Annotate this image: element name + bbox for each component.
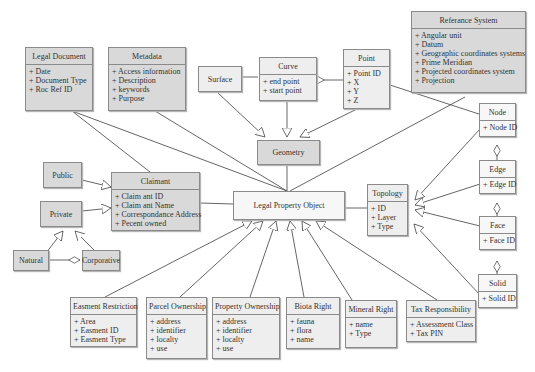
- class-solid[interactable]: Solid + Solid ID: [478, 274, 517, 308]
- class-tax-responsibility[interactable]: Tax Responsibility + Assessment Class + …: [406, 300, 476, 342]
- class-name: Node: [480, 104, 515, 121]
- class-attributes: + Claim ant ID + Claim ant Name + Corres…: [112, 190, 199, 230]
- class-attributes: + name + Type: [346, 318, 396, 340]
- class-name: Edge: [480, 161, 515, 178]
- class-attributes: + Point ID + X + Y + Z: [344, 67, 389, 107]
- attribute: + Prime Meridian: [415, 58, 522, 67]
- attribute: + Roc Ref ID: [29, 85, 89, 94]
- class-edge[interactable]: Edge + Edge ID: [479, 160, 516, 194]
- class-name: Point: [344, 50, 389, 67]
- class-corporative[interactable]: Corporative: [82, 250, 120, 271]
- class-point[interactable]: Point + Point ID + X + Y + Z: [343, 49, 390, 109]
- attribute: + Purpose: [112, 94, 182, 103]
- class-attributes: + address + identifier + localty + use: [213, 315, 279, 355]
- class-name: Claimant: [112, 173, 199, 190]
- attribute: + Type: [371, 222, 404, 231]
- class-mineral-right[interactable]: Mineral Right + name + Type: [345, 300, 397, 348]
- attribute: + use: [150, 344, 203, 353]
- class-name: Parcel Ownership: [147, 298, 206, 315]
- class-name: Biota Right: [287, 298, 339, 315]
- class-metadata[interactable]: Metadata + Access information + Descript…: [108, 47, 186, 111]
- class-geometry[interactable]: Geometry: [257, 140, 320, 165]
- class-name: Tax Responsibility: [407, 301, 475, 318]
- class-attributes: + Angular unit + Datum + Geographic coor…: [412, 29, 525, 87]
- attribute: + Easment Type: [74, 335, 133, 344]
- attribute: + identifier: [216, 326, 276, 335]
- class-reference-system[interactable]: Referance System + Angular unit + Datum …: [411, 11, 526, 93]
- class-name: Surface: [199, 67, 241, 91]
- class-attributes: + end point + start point: [260, 75, 316, 97]
- class-surface[interactable]: Surface: [198, 66, 242, 92]
- attribute: + end point: [263, 77, 313, 86]
- class-topology[interactable]: Topology + ID + Layer + Type: [367, 184, 408, 236]
- attribute: + Geographic coordinates systems: [415, 49, 522, 58]
- attribute: + Y: [347, 87, 386, 96]
- class-property-ownership[interactable]: Property Ownership + address + identifie…: [212, 297, 280, 359]
- class-name: Curve: [260, 58, 316, 75]
- attribute: + Assessment Class: [410, 320, 472, 329]
- attribute: + name: [349, 320, 393, 329]
- class-face[interactable]: Face + Face ID: [479, 216, 516, 250]
- class-private[interactable]: Private: [40, 201, 82, 227]
- class-curve[interactable]: Curve + end point + start point: [259, 57, 317, 101]
- attribute: + Point ID: [347, 69, 386, 78]
- class-name: Private: [41, 202, 81, 226]
- class-parcel-ownership[interactable]: Parcel Ownership + address + identifier …: [146, 297, 207, 359]
- class-attributes: + Edge ID: [480, 178, 515, 191]
- class-attributes: + Solid ID: [479, 292, 516, 305]
- class-name: Mineral Right: [346, 301, 396, 318]
- attribute: + fauna: [290, 317, 336, 326]
- attribute: + Angular unit: [415, 31, 522, 40]
- attribute: + Correspondance Address: [115, 210, 196, 219]
- class-name: Face: [480, 217, 515, 234]
- attribute: + address: [216, 317, 276, 326]
- class-name: Property Ownership: [213, 298, 279, 315]
- class-natural[interactable]: Natural: [13, 250, 49, 271]
- attribute: + Solid ID: [482, 294, 513, 303]
- attribute: + Area: [74, 317, 133, 326]
- class-node[interactable]: Node + Node ID: [479, 103, 516, 137]
- class-claimant[interactable]: Claimant + Claim ant ID + Claim ant Name…: [111, 172, 200, 231]
- class-easement-restriction[interactable]: Easment Restriction + Area + Easment ID …: [70, 297, 137, 347]
- attribute: + Pecent owned: [115, 219, 196, 228]
- class-name: Referance System: [412, 12, 525, 29]
- attribute: + name: [290, 335, 336, 344]
- class-attributes: + address + identifier + localty + use: [147, 315, 206, 355]
- class-name: Solid: [479, 275, 516, 292]
- attribute: + ID: [371, 204, 404, 213]
- attribute: + Easment ID: [74, 326, 133, 335]
- attribute: + Claim ant Name: [115, 201, 196, 210]
- class-biota-right[interactable]: Biota Right + fauna + flora + name: [286, 297, 340, 349]
- attribute: + Projection: [415, 76, 522, 85]
- class-name: Topology: [368, 185, 407, 202]
- attribute: + Date: [29, 67, 89, 76]
- class-public[interactable]: Public: [43, 162, 82, 188]
- class-name: Geometry: [258, 141, 319, 164]
- attribute: + Projected coordinates system: [415, 67, 522, 76]
- class-attributes: + ID + Layer + Type: [368, 202, 407, 233]
- class-attributes: + fauna + flora + name: [287, 315, 339, 346]
- attribute: + Claim ant ID: [115, 192, 196, 201]
- attribute: + Edge ID: [483, 180, 512, 189]
- attribute: + Datum: [415, 40, 522, 49]
- attribute: + flora: [290, 326, 336, 335]
- uml-diagram-canvas: Legal Document + Date + Document Type + …: [0, 0, 535, 372]
- class-attributes: + Node ID: [480, 121, 515, 134]
- attribute: + address: [150, 317, 203, 326]
- attribute: + Tax PIN: [410, 329, 472, 338]
- class-legal-document[interactable]: Legal Document + Date + Document Type + …: [25, 47, 93, 111]
- class-name: Legal Document: [26, 48, 92, 65]
- class-attributes: + Access information + Description + key…: [109, 65, 185, 105]
- attribute: + Face ID: [483, 236, 512, 245]
- class-name: Legal Property Object: [234, 192, 344, 219]
- class-attributes: + Face ID: [480, 234, 515, 247]
- class-legal-property-object[interactable]: Legal Property Object: [233, 191, 345, 220]
- attribute: + Description: [112, 76, 182, 85]
- attribute: + localty: [216, 335, 276, 344]
- attribute: + X: [347, 78, 386, 87]
- attribute: + Z: [347, 96, 386, 105]
- attribute: + Document Type: [29, 76, 89, 85]
- attribute: + keywords: [112, 85, 182, 94]
- class-attributes: + Area + Easment ID + Easment Type: [71, 315, 136, 346]
- class-name: Public: [44, 163, 81, 187]
